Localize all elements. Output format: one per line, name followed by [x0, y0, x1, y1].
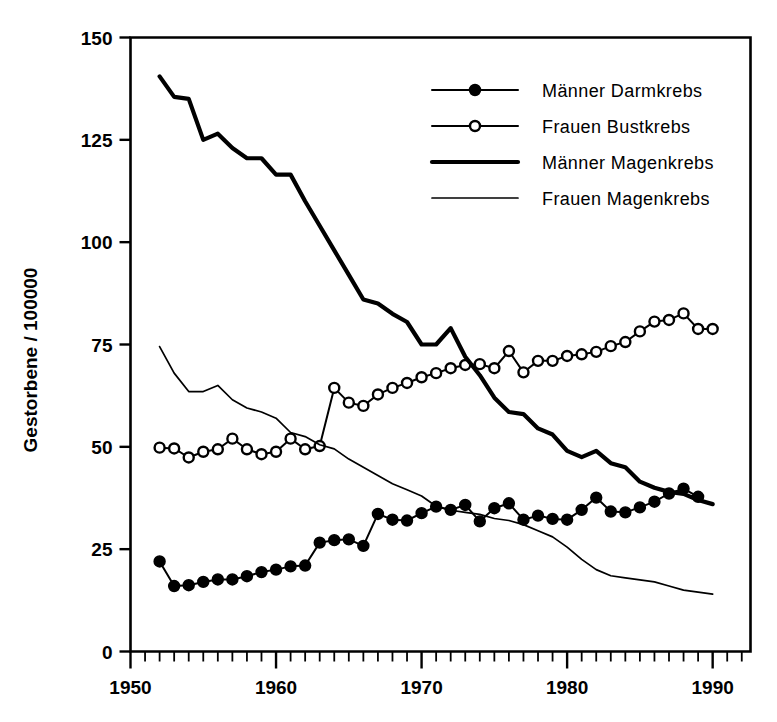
- series-m-nner-magenkrebs: [160, 76, 713, 504]
- x-tick-label-1950: 1950: [109, 677, 151, 698]
- data-point: [489, 363, 499, 373]
- data-point: [358, 540, 369, 551]
- y-tick-label-150: 150: [81, 28, 113, 49]
- data-point: [329, 383, 339, 393]
- data-point: [547, 513, 558, 524]
- data-point: [213, 444, 223, 454]
- data-point: [708, 324, 718, 334]
- legend-swatch-marker: [470, 121, 480, 131]
- legend-item-m-nner-darmkrebs: Männer Darmkrebs: [432, 81, 702, 101]
- data-point: [402, 515, 413, 526]
- y-tick-label-25: 25: [91, 539, 113, 560]
- data-point: [256, 449, 266, 459]
- data-point: [533, 356, 543, 366]
- data-point: [300, 560, 311, 571]
- chart-figure: 0255075100125150 19501960197019801990 Ge…: [0, 0, 777, 722]
- chart-legend: Männer DarmkrebsFrauen BustkrebsMänner M…: [432, 81, 714, 209]
- data-point: [606, 341, 616, 351]
- data-point: [576, 504, 587, 515]
- data-point: [417, 372, 427, 382]
- y-tick-label-0: 0: [102, 642, 113, 663]
- data-point: [300, 444, 310, 454]
- x-tick-label-1990: 1990: [692, 677, 734, 698]
- y-axis-tick-labels: 0255075100125150: [81, 28, 113, 663]
- data-point: [344, 398, 354, 408]
- data-point: [431, 368, 441, 378]
- series-path: [160, 489, 699, 586]
- data-point: [256, 567, 267, 578]
- data-point: [591, 347, 601, 357]
- data-point: [446, 363, 456, 373]
- data-point: [474, 516, 485, 527]
- data-point: [358, 401, 368, 411]
- legend-item-frauen-magenkrebs: Frauen Magenkrebs: [432, 189, 710, 209]
- data-point: [329, 535, 340, 546]
- y-tick-label-75: 75: [91, 335, 113, 356]
- data-point: [169, 443, 179, 453]
- y-tick-label-100: 100: [81, 232, 113, 253]
- data-point: [664, 315, 674, 325]
- data-point: [504, 346, 514, 356]
- series-m-nner-darmkrebs: [154, 483, 703, 591]
- data-point: [285, 561, 296, 572]
- y-tick-label-50: 50: [91, 437, 112, 458]
- data-point: [489, 503, 500, 514]
- data-point: [634, 502, 645, 513]
- data-point: [518, 367, 528, 377]
- data-point: [271, 447, 281, 457]
- legend-label: Männer Magenkrebs: [542, 153, 714, 173]
- data-point: [286, 434, 296, 444]
- x-tick-label-1980: 1980: [546, 677, 588, 698]
- series-path: [160, 313, 713, 457]
- legend-item-frauen-bustkrebs: Frauen Bustkrebs: [432, 117, 690, 137]
- data-point: [649, 496, 660, 507]
- data-point: [605, 506, 616, 517]
- legend-item-m-nner-magenkrebs: Männer Magenkrebs: [432, 153, 714, 173]
- data-point: [227, 434, 237, 444]
- data-point: [227, 574, 238, 585]
- data-point: [271, 564, 282, 575]
- data-point: [562, 514, 573, 525]
- series-path: [160, 76, 713, 504]
- y-axis-ticks: [120, 38, 131, 652]
- data-point: [387, 383, 397, 393]
- data-point: [184, 452, 194, 462]
- x-axis-ticks: [131, 652, 742, 669]
- legend-label: Frauen Magenkrebs: [542, 189, 710, 209]
- data-point: [577, 349, 587, 359]
- data-point: [693, 324, 703, 334]
- data-point: [460, 500, 471, 511]
- data-point: [343, 534, 354, 545]
- legend-label: Männer Darmkrebs: [542, 81, 702, 101]
- data-point: [504, 498, 515, 509]
- data-point: [183, 580, 194, 591]
- legend-swatch-marker: [470, 85, 481, 96]
- data-point: [402, 378, 412, 388]
- data-point: [198, 447, 208, 457]
- x-tick-label-1970: 1970: [400, 677, 442, 698]
- data-point: [198, 577, 209, 588]
- data-point: [562, 351, 572, 361]
- data-point: [314, 537, 325, 548]
- data-point: [591, 492, 602, 503]
- data-point: [242, 571, 253, 582]
- y-axis-title: Gestorbene / 100000: [20, 268, 41, 453]
- x-axis-tick-labels: 19501960197019801990: [109, 677, 733, 698]
- data-point: [548, 356, 558, 366]
- x-tick-label-1960: 1960: [255, 677, 297, 698]
- data-point: [533, 510, 544, 521]
- data-point: [679, 308, 689, 318]
- data-point: [387, 514, 398, 525]
- legend-label: Frauen Bustkrebs: [542, 117, 690, 137]
- data-point: [373, 389, 383, 399]
- line-chart-canvas: 0255075100125150 19501960197019801990 Ge…: [0, 0, 777, 722]
- data-point: [155, 443, 165, 453]
- series-frauen-bustkrebs: [155, 308, 718, 462]
- data-point: [620, 337, 630, 347]
- data-point: [620, 507, 631, 518]
- y-tick-label-125: 125: [81, 130, 113, 151]
- data-point: [154, 556, 165, 567]
- data-point: [373, 509, 384, 520]
- data-point: [242, 444, 252, 454]
- data-point: [649, 317, 659, 327]
